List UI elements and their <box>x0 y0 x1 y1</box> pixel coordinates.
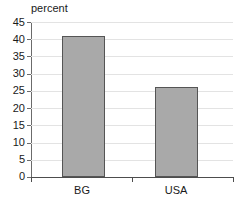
y-tick-label: 5 <box>3 154 25 165</box>
bar-usa <box>155 87 198 177</box>
plot-area <box>31 22 233 177</box>
y-tick-label: 25 <box>3 85 25 96</box>
y-tick-label: 45 <box>3 17 25 28</box>
x-category-label-usa: USA <box>146 184 206 197</box>
y-tick-label: 35 <box>3 51 25 62</box>
x-category-label-bg: BG <box>52 184 112 197</box>
x-tick-mark <box>31 178 32 182</box>
y-tick-label: 20 <box>3 103 25 114</box>
gridline <box>31 22 233 23</box>
y-tick-label: 30 <box>3 68 25 79</box>
y-axis-tick-labels: 45 40 35 30 25 20 15 10 5 0 <box>0 0 25 207</box>
x-tick-mark <box>132 178 133 182</box>
bar-bg <box>62 36 105 177</box>
bar-chart: percent 45 40 35 30 25 20 15 10 5 0 <box>0 0 237 207</box>
y-tick-label: 40 <box>3 34 25 45</box>
y-tick-label: 10 <box>3 137 25 148</box>
y-tick-label: 0 <box>3 171 25 182</box>
x-tick-mark <box>233 178 234 182</box>
y-tick-label: 15 <box>3 120 25 131</box>
y-axis-label: percent <box>31 2 68 15</box>
